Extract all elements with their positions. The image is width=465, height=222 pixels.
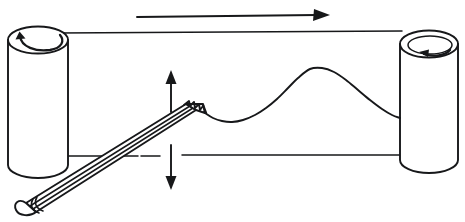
stylus-arrow-up-head — [166, 70, 177, 84]
left-roller — [8, 27, 68, 179]
stylus-vertical-motion-arrow — [166, 70, 177, 190]
chart-recorder-figure: Chart recorder with paper roll and penci… — [0, 0, 465, 222]
pen-trace-curve — [205, 68, 400, 122]
paper-feed-arrow-head — [313, 9, 330, 21]
stylus-arrow-down-head — [166, 176, 177, 190]
right-roller-body — [400, 44, 458, 173]
left-roller-body — [8, 40, 68, 178]
right-roller — [400, 31, 458, 174]
trace-path — [205, 68, 400, 122]
paper-strip — [58, 31, 402, 156]
figure-canvas — [0, 0, 465, 222]
paper-feed-arrow-shaft — [137, 15, 317, 17]
paper-top-edge — [58, 31, 402, 33]
paper-feed-direction-arrow — [137, 9, 330, 21]
